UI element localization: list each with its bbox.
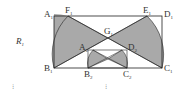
footer-mark-left: ⁝ xyxy=(12,84,14,91)
label-b2: B2 xyxy=(84,70,93,80)
label-f1: F1 xyxy=(65,6,73,16)
label-a2: A2 xyxy=(79,43,88,53)
label-d2: D2 xyxy=(128,43,137,53)
label-e1: E1 xyxy=(143,6,151,16)
footer-mark-right: ⁝ xyxy=(105,84,107,91)
label-d1: D1 xyxy=(164,10,173,20)
label-g1: G1 xyxy=(104,27,113,37)
region-label-r1: R1 xyxy=(16,37,24,47)
label-b1: B1 xyxy=(44,64,53,74)
inner-shaded-right xyxy=(108,50,127,68)
label-a1: A1 xyxy=(44,10,53,20)
label-c1: C1 xyxy=(164,64,173,74)
label-c2: C2 xyxy=(123,70,132,80)
